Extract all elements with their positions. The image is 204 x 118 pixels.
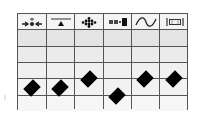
dot-cluster-icon [75, 14, 103, 30]
bracketed-box-icon [160, 14, 189, 30]
sine-wave-icon [132, 14, 159, 30]
converging-arrows-icon [18, 14, 46, 30]
dashes-to-block-icon [104, 14, 131, 30]
faint-mark [4, 95, 6, 100]
symbol-grid [17, 13, 188, 110]
triangle-under-line-icon [47, 14, 74, 30]
